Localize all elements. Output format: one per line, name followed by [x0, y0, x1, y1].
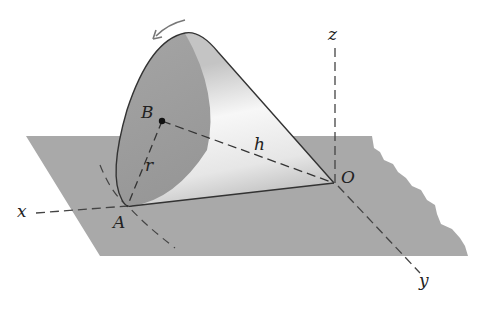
- label-radius-r: r: [145, 157, 153, 174]
- label-height-h: h: [254, 136, 265, 153]
- label-point-A: A: [113, 214, 125, 231]
- label-point-B: B: [141, 104, 154, 121]
- label-z-axis: z: [328, 26, 337, 43]
- label-x-axis: x: [17, 203, 27, 220]
- label-y-axis: y: [419, 272, 429, 289]
- point-B-dot: [159, 118, 165, 124]
- label-origin-O: O: [341, 169, 355, 186]
- cone-rolling-diagram: z x y O A B h r: [0, 0, 494, 319]
